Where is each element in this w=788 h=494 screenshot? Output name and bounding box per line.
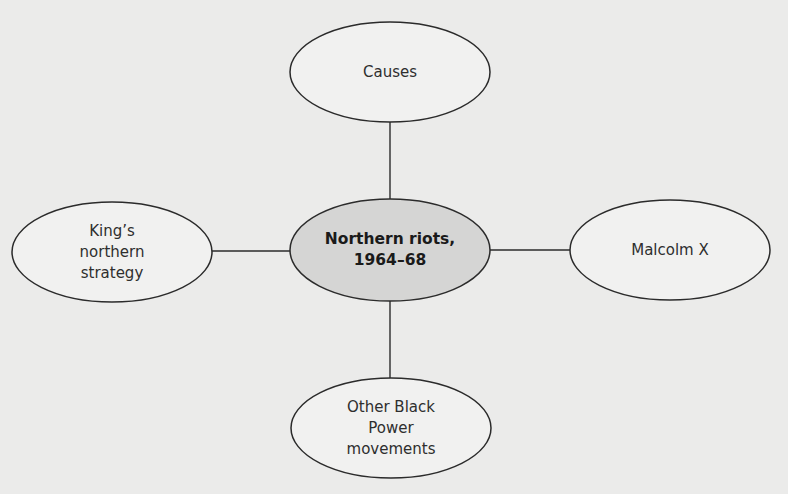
node-label-other-black-power-movements: Other Black Power movements — [291, 378, 491, 478]
spider-diagram: Northern riots, 1964–68 Causes Malcolm X… — [0, 0, 788, 494]
node-label-causes: Causes — [290, 22, 490, 122]
node-label-kings-northern-strategy: King’s northern strategy — [12, 202, 212, 302]
node-label-malcolm-x: Malcolm X — [570, 200, 770, 300]
center-node-label: Northern riots, 1964–68 — [290, 199, 490, 301]
